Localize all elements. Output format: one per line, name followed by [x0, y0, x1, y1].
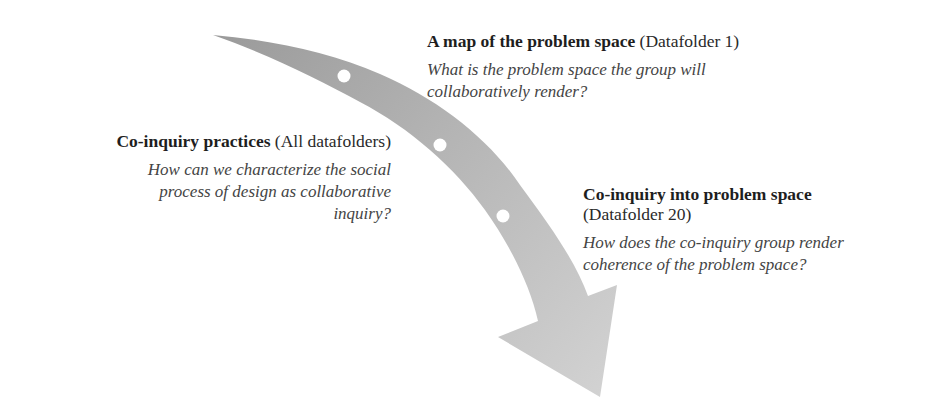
research-question: How can we characterize the social proce… — [100, 159, 391, 225]
title-bold: Co-inquiry practices — [116, 131, 270, 151]
title-bold: Co-inquiry into problem space — [583, 184, 812, 204]
datafolder-label: (All datafolders) — [275, 131, 391, 151]
milestone-dot-1 — [338, 70, 351, 83]
map-of-problem-space-block: A map of the problem space (Datafolder 1… — [427, 31, 757, 103]
question-line: How does the co-inquiry group render — [583, 232, 933, 254]
title-bold: A map of the problem space — [427, 31, 635, 51]
datafolder-label: (Datafolder 20) — [583, 204, 933, 224]
co-inquiry-into-problem-space-block: Co-inquiry into problem space (Datafolde… — [583, 184, 933, 276]
question-line: inquiry? — [100, 203, 391, 225]
question-line: What is the problem space the group will — [427, 59, 757, 81]
block-title: Co-inquiry practices (All datafolders) — [40, 131, 391, 151]
block-title: A map of the problem space (Datafolder 1… — [427, 31, 757, 51]
question-line: collaboratively render? — [427, 81, 757, 103]
datafolder-label: (Datafolder 1) — [640, 31, 740, 51]
block-title: Co-inquiry into problem space — [583, 184, 933, 204]
research-question: How does the co-inquiry group render coh… — [583, 232, 933, 276]
question-line: How can we characterize the social — [100, 159, 391, 181]
milestone-dot-3 — [497, 210, 510, 223]
milestone-dot-2 — [434, 139, 447, 152]
co-inquiry-practices-block: Co-inquiry practices (All datafolders) H… — [40, 131, 391, 225]
question-line: process of design as collaborative — [100, 181, 391, 203]
question-line: coherence of the problem space? — [583, 254, 933, 276]
research-question: What is the problem space the group will… — [427, 59, 757, 103]
